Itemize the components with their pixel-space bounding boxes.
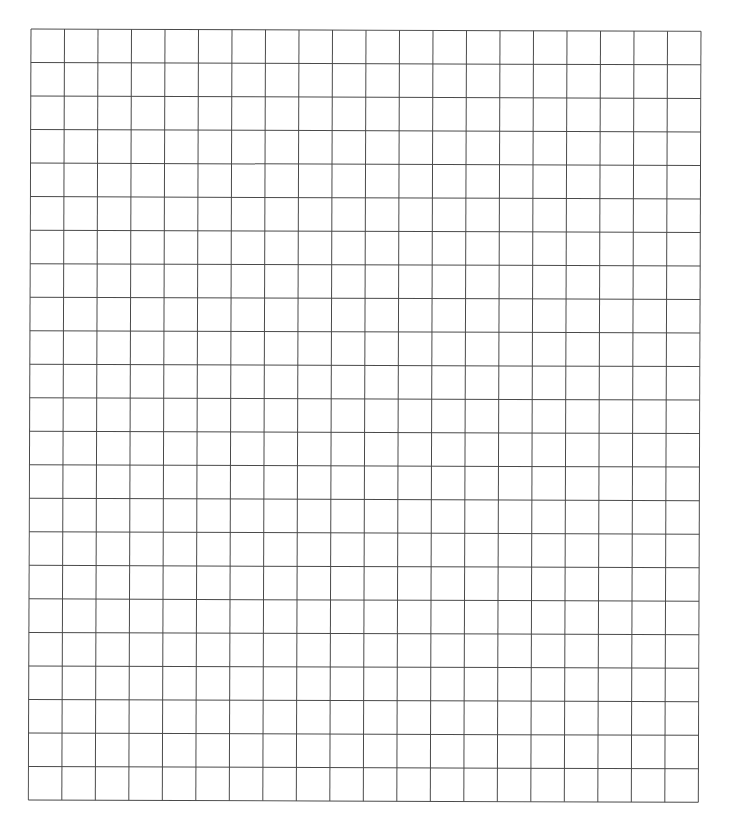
- grid-vertical-line: [665, 31, 668, 802]
- grid-vertical-line: [263, 30, 266, 801]
- grid-vertical-line: [397, 30, 400, 801]
- grid-vertical-line: [330, 30, 333, 801]
- grid-vertical-line: [162, 29, 165, 800]
- grid-vertical-line: [698, 31, 701, 802]
- grid-vertical-line: [363, 30, 366, 801]
- grid-vertical-line: [631, 31, 634, 802]
- grid-vertical-line: [196, 30, 199, 801]
- grid-vertical-line: [531, 31, 534, 802]
- grid-lines: [27, 28, 702, 803]
- grid-vertical-line: [430, 30, 433, 801]
- grid-vertical-line: [564, 31, 567, 802]
- grid-vertical-line: [598, 31, 601, 802]
- grid-vertical-line: [28, 29, 31, 800]
- grid-vertical-line: [62, 29, 65, 800]
- grid-vertical-line: [296, 30, 299, 801]
- graph-paper-grid: [27, 28, 700, 801]
- grid-vertical-line: [129, 29, 132, 800]
- grid-vertical-line: [229, 30, 232, 801]
- grid-vertical-line: [464, 31, 467, 802]
- grid-vertical-line: [95, 29, 98, 800]
- grid-vertical-line: [497, 31, 500, 802]
